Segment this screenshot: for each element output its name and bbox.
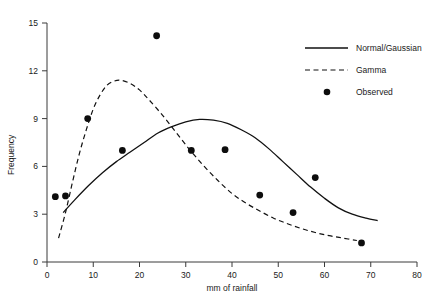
y-tick-label: 9 [33,114,38,124]
x-tick-label: 0 [45,270,50,280]
y-tick-label: 15 [29,18,39,28]
observed-data-point [119,147,126,154]
legend-observed-dot-swatch [324,89,331,96]
x-axis-title: mm of rainfall [206,283,257,293]
legend-label-gamma: Gamma [356,65,387,75]
observed-data-point [358,239,365,246]
x-tick-label: 10 [89,270,99,280]
observed-points-group [52,32,365,246]
y-axis-title: Frequency [6,134,16,175]
rainfall-frequency-chart: 03691215 01020304050607080 Frequency mm … [0,0,436,308]
observed-data-point [188,147,195,154]
observed-data-point [84,115,91,122]
observed-data-point [153,32,160,39]
x-axis-ticks: 01020304050607080 [45,262,422,280]
observed-data-point [290,209,297,216]
y-tick-label: 6 [33,161,38,171]
x-tick-label: 30 [181,270,191,280]
x-tick-label: 20 [135,270,145,280]
x-tick-label: 80 [412,270,422,280]
y-axis-ticks: 03691215 [29,18,47,267]
x-tick-label: 60 [320,270,330,280]
chart-legend: Normal/Gaussian Gamma Observed [305,43,422,97]
axes-group [47,23,417,262]
observed-data-point [256,192,263,199]
gamma-curve [59,80,357,240]
x-tick-label: 70 [366,270,376,280]
y-tick-label: 0 [33,257,38,267]
y-tick-label: 12 [29,66,39,76]
x-tick-label: 40 [227,270,237,280]
observed-data-point [62,192,69,199]
normal-gaussian-curve [63,119,378,220]
y-tick-label: 3 [33,209,38,219]
legend-label-observed: Observed [356,87,393,97]
chart-svg: 03691215 01020304050607080 Frequency mm … [0,0,436,308]
x-tick-label: 50 [274,270,284,280]
observed-data-point [52,193,59,200]
observed-data-point [222,146,229,153]
observed-data-point [312,174,319,181]
legend-label-normal: Normal/Gaussian [356,43,422,53]
